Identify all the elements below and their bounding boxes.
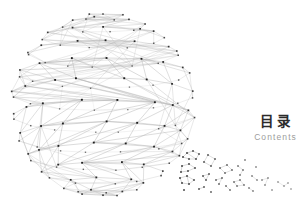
particle-dots: [179, 150, 292, 193]
slide-canvas: 目 录 Contents: [0, 0, 303, 217]
page-title-cn: 目 录: [247, 114, 303, 129]
title-block: 目 录 Contents: [247, 114, 303, 143]
page-subtitle-en: Contents: [247, 132, 303, 143]
particle-edges: [180, 151, 288, 191]
particle-field: [0, 0, 303, 217]
